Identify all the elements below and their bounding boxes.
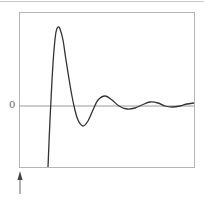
plot-frame — [20, 13, 195, 168]
response-curve — [48, 27, 194, 167]
impulse-arrow-icon — [18, 171, 23, 194]
damped-oscillation-figure — [0, 0, 204, 203]
zero-tick-label: 0 — [9, 99, 15, 110]
